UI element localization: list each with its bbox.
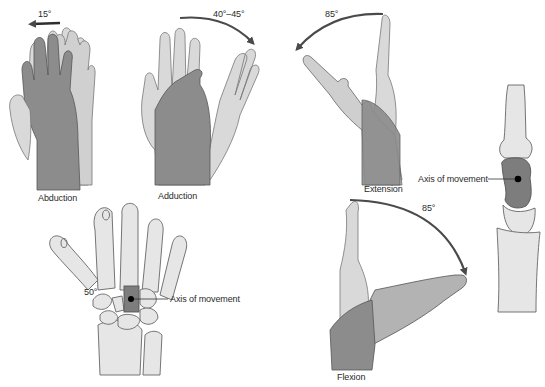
- thumb-angle-label: 50°: [84, 287, 97, 297]
- wrist-motion-diagram: [0, 0, 545, 387]
- flexion-label: Flexion: [337, 372, 365, 382]
- flexion-hand: [330, 201, 467, 370]
- abduction-label: Abduction: [38, 193, 77, 203]
- extension-label: Extension: [364, 184, 403, 194]
- lateral-bones: [497, 85, 540, 312]
- extension-arrow-icon: [298, 14, 383, 48]
- carpal-axis-label: Axis of movement: [170, 294, 240, 304]
- flexion-arrow-icon: [350, 200, 465, 272]
- axis-dot-carpal: [128, 296, 134, 302]
- lateral-axis-label: Axis of movement: [418, 174, 488, 184]
- adduction-hands: [142, 28, 259, 185]
- abduction-angle-label: 15°: [38, 9, 51, 19]
- adduction-label: Adduction: [158, 191, 197, 201]
- flexion-angle-label: 85°: [422, 203, 435, 213]
- abduction-arrow-icon: [32, 23, 60, 24]
- extension-angle-label: 85°: [325, 9, 338, 19]
- axis-dot-lateral: [515, 176, 522, 183]
- extension-hand: [303, 15, 402, 185]
- carpal-bones: [50, 203, 187, 375]
- abduction-hands: [10, 28, 95, 190]
- adduction-arrow-icon: [180, 18, 252, 43]
- adduction-angle-label: 40°–45°: [213, 9, 245, 19]
